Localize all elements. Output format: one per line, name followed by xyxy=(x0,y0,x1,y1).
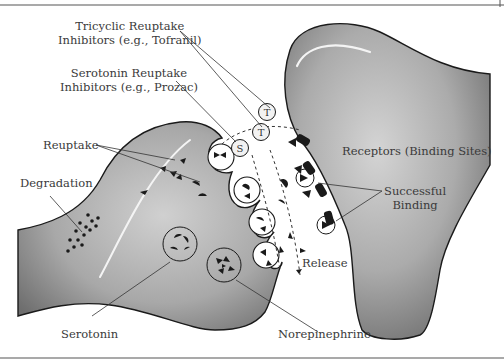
label-release: Release xyxy=(302,256,348,270)
tricyclic-marker-2-text: T xyxy=(258,127,265,138)
synapse-diagram: S T T Tricyclic Reuptake Inhibit xyxy=(0,0,504,361)
label-tricyclic-line2: Inhibitors (e.g., Tofranil) xyxy=(58,33,202,47)
postsynaptic-neuron xyxy=(285,24,490,340)
label-degradation: Degradation xyxy=(20,176,93,190)
inhibitor-markers: S T T xyxy=(232,104,276,157)
tricyclic-marker-1-text: T xyxy=(264,107,271,118)
label-serotonin: Serotonin xyxy=(61,327,118,341)
label-ssri: Serotonin Reuptake Inhibitors (e.g., Pro… xyxy=(60,66,198,94)
label-successful-line2: Binding xyxy=(384,198,446,212)
ssri-marker-text: S xyxy=(237,143,244,154)
label-reuptake: Reuptake xyxy=(43,138,98,152)
label-ssri-line1: Serotonin Reuptake xyxy=(60,66,198,80)
label-ssri-line2: Inhibitors (e.g., Prozac) xyxy=(60,80,198,94)
label-receptors: Receptors (Binding Sites) xyxy=(342,144,492,158)
label-successful-line1: Successful xyxy=(384,184,446,198)
label-norepinephrine: Norepinephrine xyxy=(278,327,371,341)
label-tricyclic-inhibitors: Tricyclic Reuptake Inhibitors (e.g., Tof… xyxy=(58,19,202,47)
label-tricyclic-line1: Tricyclic Reuptake xyxy=(58,19,202,33)
label-successful-binding: Successful Binding xyxy=(384,184,446,212)
